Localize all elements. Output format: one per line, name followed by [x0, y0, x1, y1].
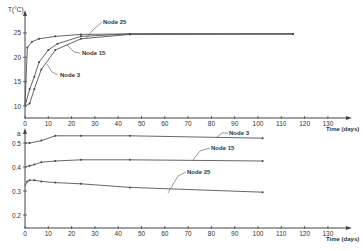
x-tick-label: 130 [322, 120, 333, 127]
data-point [31, 41, 33, 43]
data-point [80, 159, 82, 161]
data-point [40, 161, 42, 163]
x-tick-label: 0 [23, 230, 27, 237]
bottom-node15-leader [193, 148, 210, 160]
bottom-annotation-node15: Node 15 [211, 145, 235, 151]
data-point [80, 35, 82, 37]
data-point [292, 33, 294, 35]
series-node-25 [25, 34, 293, 106]
x-tick-label: 90 [231, 120, 239, 127]
y-tick-label: 10 [14, 103, 22, 110]
data-point [54, 35, 56, 37]
top-chart: T(°C) Time (days) 0102030405060708090100… [8, 6, 359, 132]
x-tick-label: 120 [299, 120, 310, 127]
bottom-annotation-node3: Node 3 [229, 130, 250, 136]
x-tick-label: 10 [45, 120, 53, 127]
chart-canvas: T(°C) Time (days) 0102030405060708090100… [0, 0, 363, 251]
y-tick-label: 20 [14, 54, 22, 61]
bottom-annotation-node25: Node 25 [187, 169, 211, 175]
bottom-series [25, 135, 264, 193]
data-point [57, 43, 59, 45]
x-tick-label: 90 [231, 230, 239, 237]
y-tick-label: 0.3 [12, 188, 21, 195]
bottom-y-arrow-icon [23, 128, 27, 134]
data-point [29, 142, 31, 144]
x-tick-label: 30 [91, 230, 99, 237]
data-point [80, 183, 82, 185]
data-point [54, 160, 56, 162]
series-node-15 [25, 160, 263, 167]
y-tick-label: 25 [14, 29, 22, 36]
x-tick-label: 60 [161, 120, 169, 127]
data-point [80, 135, 82, 137]
bottom-x-arrow-icon [346, 226, 352, 230]
data-point [26, 180, 28, 182]
x-tick-label: 30 [91, 120, 99, 127]
data-point [33, 179, 35, 181]
bottom-y-label: a [17, 130, 21, 137]
data-point [129, 159, 131, 161]
node3-leader [47, 64, 58, 75]
x-tick-label: 80 [208, 120, 216, 127]
data-point [26, 47, 28, 49]
series-node-3 [25, 34, 293, 106]
top-y-arrow-icon [23, 10, 27, 16]
series-node-25 [25, 180, 263, 192]
data-point [40, 68, 42, 70]
data-point [129, 135, 131, 137]
data-point [262, 160, 264, 162]
top-annotation-node25: Node 25 [103, 19, 127, 25]
data-point [129, 33, 131, 35]
data-point [80, 38, 82, 40]
data-point [33, 76, 35, 78]
data-point [33, 88, 35, 90]
x-tick-label: 80 [208, 230, 216, 237]
series-node-3 [25, 136, 263, 143]
data-point [80, 33, 82, 35]
bottom-node25-leader [168, 172, 186, 193]
y-tick-label: 0.5 [12, 140, 21, 147]
data-point [33, 164, 35, 166]
node15-leader [67, 45, 80, 53]
data-point [262, 137, 264, 139]
data-point [29, 165, 31, 167]
data-point [54, 135, 56, 137]
data-point [262, 191, 264, 193]
x-tick-label: 70 [184, 230, 192, 237]
top-x-arrow-icon [346, 116, 352, 120]
series-node-15 [25, 34, 293, 106]
data-point [47, 49, 49, 51]
x-tick-label: 40 [115, 230, 123, 237]
x-tick-label: 130 [322, 230, 333, 237]
x-tick-label: 50 [138, 230, 146, 237]
x-tick-label: 120 [299, 230, 310, 237]
x-tick-label: 50 [138, 120, 146, 127]
x-tick-label: 20 [68, 120, 76, 127]
data-point [38, 38, 40, 40]
data-point [40, 180, 42, 182]
y-tick-label: 0.2 [12, 212, 21, 219]
x-tick-label: 10 [45, 230, 53, 237]
data-point [54, 182, 56, 184]
data-point [40, 140, 42, 142]
data-point [38, 61, 40, 63]
top-annotation-node3: Node 3 [60, 72, 81, 78]
data-point [29, 179, 31, 181]
y-tick-label: 0.4 [12, 164, 21, 171]
data-point [29, 88, 31, 90]
data-point [29, 103, 31, 105]
top-annotation-node15: Node 15 [82, 50, 106, 56]
y-tick-label: 15 [14, 78, 22, 85]
bottom-chart: a Time (days) 01020304050607080901001101… [12, 128, 359, 242]
x-tick-label: 110 [276, 120, 287, 127]
x-tick-label: 0 [23, 120, 27, 127]
x-tick-label: 100 [253, 230, 264, 237]
x-tick-label: 60 [161, 230, 169, 237]
top-series [25, 33, 294, 106]
x-tick-label: 110 [276, 230, 287, 237]
data-point [129, 186, 131, 188]
figure: T(°C) Time (days) 0102030405060708090100… [0, 0, 363, 251]
data-point [54, 49, 56, 51]
top-y-label: T(°C) [8, 6, 24, 14]
x-tick-label: 100 [253, 120, 264, 127]
